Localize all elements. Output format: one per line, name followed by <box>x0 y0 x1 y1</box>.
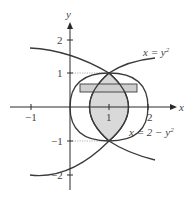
x-axis-arrow-icon <box>170 104 177 110</box>
approximating-strip <box>80 84 137 92</box>
x-tick-label-neg1: −1 <box>25 111 37 123</box>
y-axis-arrow-icon <box>67 22 73 29</box>
x-tick-label-2: 2 <box>147 111 153 123</box>
y-axis-label: y <box>65 8 71 20</box>
curve-label-x-equals-y-squared: x = y2 <box>142 46 170 58</box>
y-tick-label-2: 2 <box>57 34 63 46</box>
region-diagram: −1 1 2 2 1 −1 −2 x y x = y2 x = 2 − y2 <box>0 0 189 197</box>
y-tick-label-neg1: −1 <box>51 135 63 147</box>
x-axis-label: x <box>178 101 184 113</box>
curve-label-x-equals-2-minus-y-squared: x = 2 − y2 <box>128 126 174 138</box>
y-tick-label-neg2: −2 <box>51 169 63 181</box>
x-tick-label-1: 1 <box>106 111 112 123</box>
y-tick-label-1: 1 <box>57 67 63 79</box>
